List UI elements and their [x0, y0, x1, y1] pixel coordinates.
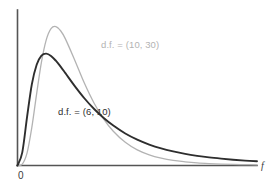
density-curve-df-6-10	[18, 54, 258, 166]
origin-tick-label: 0	[18, 170, 24, 181]
series-label-df-10-30: d.f. = (10, 30)	[101, 39, 159, 50]
x-axis-variable-label: f	[261, 160, 265, 171]
series-label-df-6-10: d.f. = (6, 10)	[58, 106, 111, 117]
f-distribution-chart: 0 f d.f. = (10, 30) d.f. = (6, 10)	[0, 0, 279, 185]
chart-plot-area: 0 f	[0, 0, 279, 185]
